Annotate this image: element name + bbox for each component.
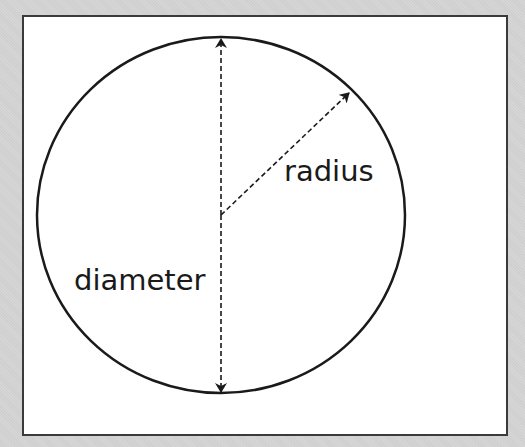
circle-diagram: radius diameter: [0, 0, 525, 447]
diameter-label: diameter: [74, 263, 206, 297]
radius-label: radius: [284, 154, 374, 188]
